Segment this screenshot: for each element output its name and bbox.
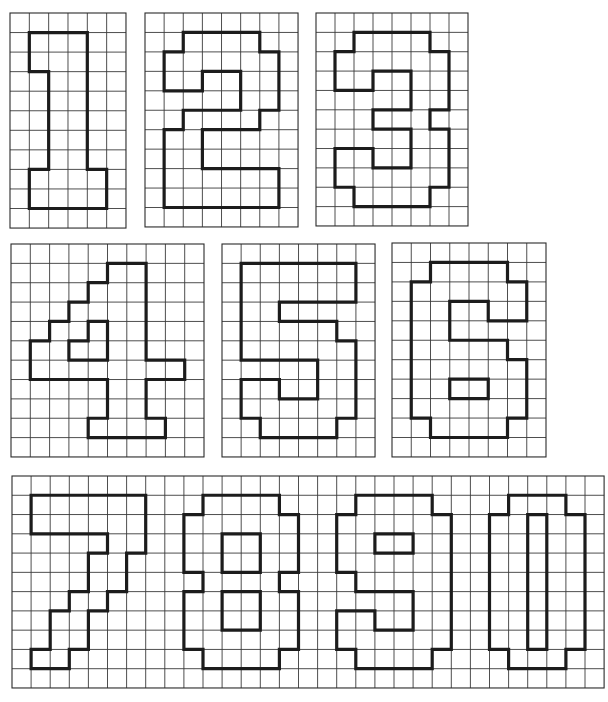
numeral-grids-canvas	[0, 0, 608, 702]
grid-lines	[222, 244, 375, 457]
grid-panel-digit-3	[316, 13, 468, 226]
grid-panel-digits-7-8-9-0	[12, 476, 604, 688]
grid-lines	[10, 13, 126, 228]
grid-panel-digit-2	[145, 13, 298, 227]
grid-panel-digit-1	[10, 13, 126, 228]
grid-panel-digit-5	[222, 244, 375, 457]
grid-lines	[392, 243, 546, 457]
digit-0-outer-outline	[490, 495, 586, 668]
grid-lines	[316, 13, 468, 226]
digit-outline-0	[490, 495, 586, 668]
grid-lines	[145, 13, 298, 227]
grid-panel-digit-4	[11, 244, 204, 457]
grid-panel-digit-6	[392, 243, 546, 457]
grid-lines	[12, 476, 604, 688]
digit-0-counter-outline	[528, 515, 547, 650]
grid-border	[12, 476, 604, 688]
